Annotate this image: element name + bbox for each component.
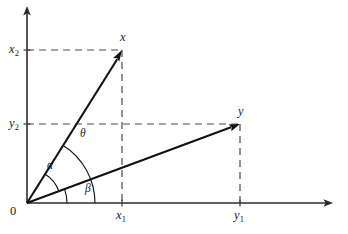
axis-label-x2-sub: 2 (15, 48, 19, 58)
axis-label-y1-sub: 1 (240, 214, 244, 224)
axis-label-x2: x2 (9, 43, 19, 56)
vector-x-label: x (120, 31, 126, 44)
axis-label-x1-sub: 1 (122, 214, 126, 224)
angle-label-alpha: α (47, 160, 53, 172)
angle-label-beta: β (85, 183, 91, 195)
origin-label: 0 (10, 205, 16, 218)
axis-label-y2-sub: 2 (15, 122, 19, 132)
guide-lines-group (27, 50, 240, 203)
angle-arc-beta (65, 189, 67, 203)
angle-label-theta: θ (80, 128, 86, 140)
vector-angle-figure: 0 x2 y2 x1 y1 x y α β θ (0, 0, 348, 234)
axis-label-x1: x1 (116, 209, 126, 222)
axis-label-y1-var: y (234, 208, 240, 222)
figure-canvas (0, 0, 348, 234)
vector-x-shaft (27, 59, 117, 203)
vector-y-shaft (27, 127, 231, 203)
axes-group (23, 6, 333, 207)
axis-label-x2-var: x (9, 42, 15, 56)
tick-marks-group (24, 50, 241, 207)
axis-label-y2: y2 (9, 117, 19, 130)
axis-label-x1-var: x (116, 208, 122, 222)
angle-arc-alpha (45, 174, 59, 191)
axis-label-y1: y1 (234, 209, 244, 222)
axis-label-y2-var: y (9, 116, 15, 130)
vectors-group (27, 50, 240, 203)
vector-y-label: y (238, 105, 244, 118)
